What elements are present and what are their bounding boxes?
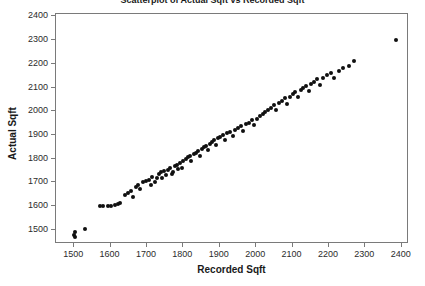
data-point [138, 187, 142, 191]
y-axis-tick-label: 2400 [28, 11, 48, 20]
x-axis-tick-label: 1600 [100, 250, 120, 259]
data-point [304, 84, 308, 88]
x-axis-tick-label: 2400 [391, 250, 411, 259]
y-axis-tick [51, 205, 55, 206]
x-axis-tick [292, 243, 293, 247]
y-axis-tick-label: 2200 [28, 58, 48, 67]
data-point [221, 133, 225, 137]
data-point [83, 227, 87, 231]
x-axis-tick [110, 243, 111, 247]
y-axis-tick-label: 2100 [28, 82, 48, 91]
y-axis-tick-label: 1500 [28, 224, 48, 233]
y-axis-tick [51, 87, 55, 88]
x-axis-tick-label: 2200 [318, 250, 338, 259]
data-point [285, 102, 289, 106]
data-point [153, 180, 157, 184]
data-point [293, 90, 297, 94]
chart-title: Scatterplot of Actual Sqft vs Recorded S… [0, 0, 425, 5]
y-axis-tick [51, 39, 55, 40]
y-axis-tick-label: 2300 [28, 35, 48, 44]
data-point [274, 108, 278, 112]
plot-area [55, 13, 408, 243]
x-axis-tick-label: 1500 [63, 250, 83, 259]
y-axis-tick-label: 1600 [28, 201, 48, 210]
y-axis-tick-label: 2000 [28, 106, 48, 115]
data-point [250, 118, 254, 122]
data-point [73, 230, 77, 234]
data-point [272, 103, 276, 107]
x-axis-tick-label: 2000 [245, 250, 265, 259]
data-point [241, 129, 245, 133]
y-axis-tick [51, 158, 55, 159]
x-axis-tick [73, 243, 74, 247]
data-point [394, 38, 398, 42]
y-axis-tick [51, 63, 55, 64]
data-point [189, 159, 193, 163]
data-point [318, 83, 322, 87]
y-axis-title: Actual Sqft [7, 84, 18, 184]
x-axis-tick [146, 243, 147, 247]
data-point [347, 64, 351, 68]
x-axis-tick [255, 243, 256, 247]
data-point [149, 183, 153, 187]
data-point [329, 71, 333, 75]
data-point [109, 204, 113, 208]
data-point [341, 66, 345, 70]
y-axis-tick [51, 15, 55, 16]
data-point [131, 195, 135, 199]
data-point [164, 173, 168, 177]
x-axis-tick [219, 243, 220, 247]
y-axis-tick [51, 110, 55, 111]
x-axis-tick [182, 243, 183, 247]
x-axis-tick-label: 2300 [354, 250, 374, 259]
data-point [337, 69, 341, 73]
data-point [252, 123, 256, 127]
data-point [101, 204, 105, 208]
data-point [239, 124, 243, 128]
data-point [206, 148, 210, 152]
x-axis-tick [328, 243, 329, 247]
data-point [73, 235, 77, 239]
data-point [118, 201, 122, 205]
data-point [198, 154, 202, 158]
data-point [283, 96, 287, 100]
data-point [315, 77, 319, 81]
x-axis-title: Recorded Sqft [55, 264, 408, 275]
y-axis-tick-label: 1900 [28, 129, 48, 138]
data-point [155, 176, 159, 180]
x-axis-tick-label: 2100 [282, 250, 302, 259]
y-axis-tick-label: 1700 [28, 177, 48, 186]
x-axis-tick [401, 243, 402, 247]
y-axis-tick [51, 181, 55, 182]
data-point [150, 175, 154, 179]
data-point [214, 143, 218, 147]
data-point [129, 189, 133, 193]
data-point [296, 95, 300, 99]
y-axis-tick-label: 1800 [28, 153, 48, 162]
y-axis-tick [51, 229, 55, 230]
data-point [180, 166, 184, 170]
data-point [352, 59, 356, 63]
data-point [231, 134, 235, 138]
data-point [223, 138, 227, 142]
data-point [307, 89, 311, 93]
data-point [332, 76, 336, 80]
x-axis-tick-label: 1700 [136, 250, 156, 259]
x-axis-tick [364, 243, 365, 247]
x-axis-tick-label: 1900 [209, 250, 229, 259]
scatter-chart: Scatterplot of Actual Sqft vs Recorded S… [0, 0, 425, 286]
data-point [171, 170, 175, 174]
y-axis-tick [51, 134, 55, 135]
x-axis-tick-label: 1800 [172, 250, 192, 259]
